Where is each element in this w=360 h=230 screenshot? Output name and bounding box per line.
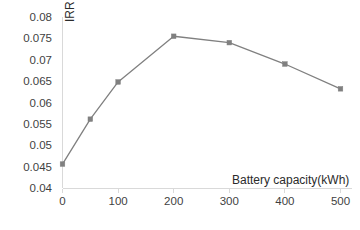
data-point bbox=[88, 117, 93, 122]
series-line-irr bbox=[63, 36, 341, 164]
line-chart: 0.08 0.075 0.07 0.065 0.06 0.055 0.05 0.… bbox=[0, 0, 360, 230]
data-point bbox=[283, 62, 288, 67]
y-tick-label: 0.05 bbox=[30, 139, 52, 151]
x-tick-label: 500 bbox=[331, 195, 350, 207]
y-tick-label: 0.065 bbox=[23, 75, 52, 87]
y-tick-label: 0.055 bbox=[23, 118, 52, 130]
y-axis-tick-labels: 0.08 0.075 0.07 0.065 0.06 0.055 0.05 0.… bbox=[23, 11, 52, 194]
data-point bbox=[60, 162, 65, 167]
y-tick-label: 0.075 bbox=[23, 32, 52, 44]
x-tick-label: 0 bbox=[59, 195, 65, 207]
x-axis-title: Battery capacity(kWh) bbox=[232, 173, 349, 187]
series-markers bbox=[60, 34, 343, 166]
y-tick-label: 0.04 bbox=[30, 182, 53, 194]
data-point bbox=[227, 40, 232, 45]
chart-container: 0.08 0.075 0.07 0.065 0.06 0.055 0.05 0.… bbox=[0, 0, 360, 230]
data-point bbox=[171, 34, 176, 39]
y-tick-label: 0.045 bbox=[23, 161, 52, 173]
data-point bbox=[116, 80, 121, 85]
x-tick-label: 300 bbox=[220, 195, 239, 207]
x-axis-tick-marks bbox=[63, 189, 341, 193]
x-tick-label: 400 bbox=[275, 195, 294, 207]
y-tick-label: 0.08 bbox=[30, 11, 52, 23]
y-axis-title: IRR (%) bbox=[63, 0, 77, 22]
y-tick-label: 0.06 bbox=[30, 97, 52, 109]
x-tick-label: 100 bbox=[109, 195, 128, 207]
y-tick-label: 0.07 bbox=[30, 54, 52, 66]
x-tick-label: 200 bbox=[164, 195, 183, 207]
data-point bbox=[338, 87, 343, 92]
x-axis-tick-labels: 0 100 200 300 400 500 bbox=[59, 195, 350, 207]
